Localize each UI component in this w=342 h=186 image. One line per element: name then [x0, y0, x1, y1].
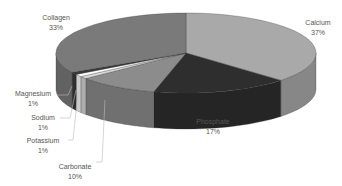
label-name: Potassium — [27, 136, 60, 146]
label-sodium: Sodium1% — [31, 113, 55, 133]
label-percent: 17% — [196, 127, 229, 137]
label-collagen: Collagen33% — [42, 13, 70, 33]
pie-side-potassium — [81, 77, 86, 115]
label-name: Carbonate — [59, 162, 92, 172]
label-carbonate: Carbonate10% — [59, 162, 92, 182]
label-name: Phosphate — [196, 117, 229, 127]
label-potassium: Potassium1% — [27, 136, 60, 156]
label-percent: 1% — [31, 123, 55, 133]
label-percent: 1% — [27, 146, 60, 156]
label-percent: 10% — [59, 172, 92, 182]
label-magnesium: Magnesium1% — [15, 89, 51, 109]
pie-tops — [56, 13, 316, 93]
label-percent: 33% — [42, 23, 70, 33]
label-name: Collagen — [42, 13, 70, 23]
label-name: Calcium — [305, 18, 330, 28]
label-percent: 37% — [305, 28, 330, 38]
pie-side-sodium — [76, 74, 81, 112]
label-calcium: Calcium37% — [305, 18, 330, 38]
label-name: Magnesium — [15, 89, 51, 99]
label-name: Sodium — [31, 113, 55, 123]
label-percent: 1% — [15, 99, 51, 109]
label-phosphate: Phosphate17% — [196, 117, 229, 137]
